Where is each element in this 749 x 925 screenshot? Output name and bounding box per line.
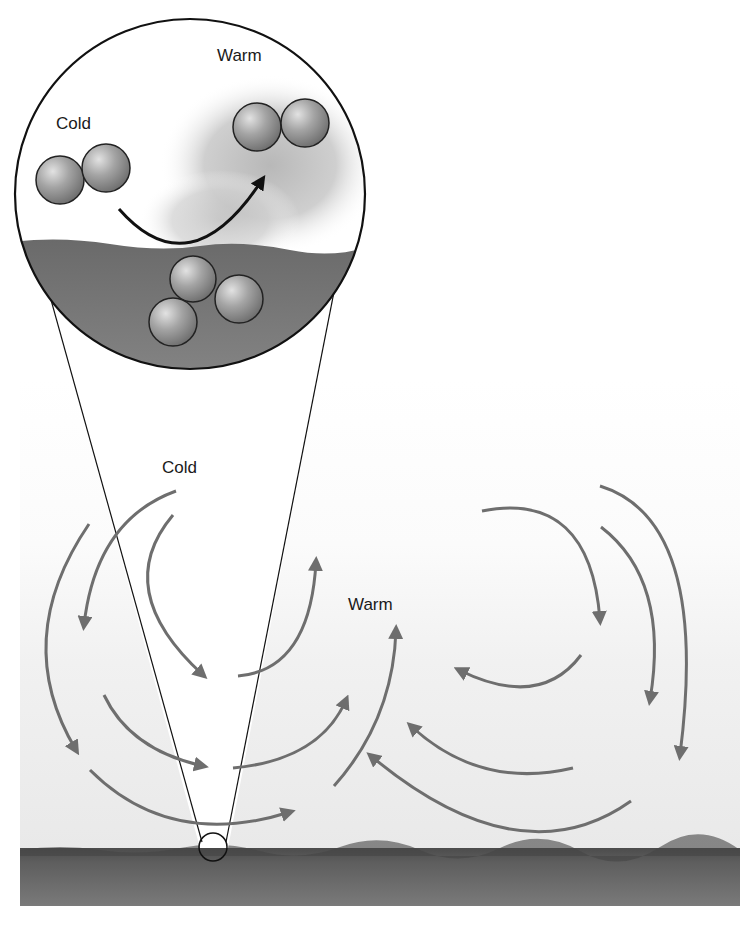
main-warm-label: Warm (348, 595, 393, 615)
diagram-canvas (0, 0, 749, 925)
main-cold-label: Cold (162, 458, 197, 478)
inset-warm-label: Warm (217, 46, 262, 66)
molecule-icon (149, 298, 197, 346)
molecule-icon (36, 156, 84, 204)
molecule-icon (170, 256, 216, 302)
molecule-icon (215, 275, 263, 323)
inset-cold-label: Cold (56, 114, 91, 134)
convection-diagram: Warm Cold Cold Warm (0, 0, 749, 925)
molecule-icon (82, 144, 130, 192)
molecule-icon (233, 103, 281, 151)
molecule-icon (281, 99, 329, 147)
